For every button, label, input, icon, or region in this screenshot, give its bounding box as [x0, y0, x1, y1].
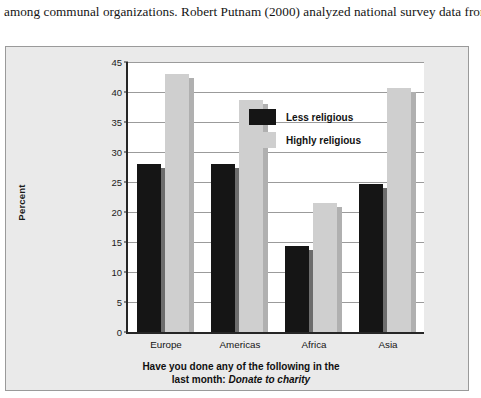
y-axis-tick-label: 40 [111, 87, 122, 98]
chart-container: Percent 051015202530354045EuropeAmericas… [6, 47, 470, 392]
y-axis-tick-label: 45 [111, 57, 122, 68]
bar-europe-highly-religious [165, 74, 189, 332]
y-axis-tick-label: 20 [111, 207, 122, 218]
x-axis-tick-label-americas: Americas [220, 339, 261, 350]
bar-asia-highly-religious [387, 88, 411, 332]
y-axis-tick-mark [124, 122, 128, 123]
page-root: among communal organizations. Robert Put… [0, 0, 481, 398]
y-axis-tick-mark [124, 92, 128, 93]
bar-body [211, 164, 235, 332]
legend-swatch-icon-highly-religious [249, 132, 276, 148]
figure-frame: Percent 051015202530354045EuropeAmericas… [5, 46, 469, 391]
legend-item-highly-religious: Highly religious [249, 130, 389, 150]
y-axis-tick-label: 5 [117, 297, 122, 308]
y-axis-tick-mark [124, 332, 128, 333]
bar-shadow [411, 92, 416, 332]
bar-body [137, 164, 161, 332]
y-axis-tick-mark [124, 212, 128, 213]
y-axis-tick-label: 35 [111, 117, 122, 128]
chart-legend: Less religious Highly religious [249, 107, 389, 153]
y-axis-tick-label: 15 [111, 237, 122, 248]
bar-body [359, 184, 383, 332]
y-axis-tick-mark [124, 182, 128, 183]
caption-line-2-prefix: last month: [172, 374, 229, 385]
caption-line-2-emphasis: Donate to charity [228, 374, 310, 385]
chart-caption: Have you done any of the following in th… [66, 360, 416, 386]
legend-label-highly-religious: Highly religious [286, 135, 361, 146]
y-axis-tick-label: 30 [111, 147, 122, 158]
body-paragraph-text: among communal organizations. Robert Put… [4, 3, 478, 20]
y-gridline [128, 62, 424, 63]
x-axis-tick-label-africa: Africa [301, 339, 326, 350]
bar-shadow [189, 78, 194, 332]
y-axis-tick-mark [124, 302, 128, 303]
bar-asia-less-religious [359, 184, 383, 332]
bar-shadow [337, 207, 342, 332]
y-axis-tick-label: 25 [111, 177, 122, 188]
legend-label-less-religious: Less religious [286, 112, 353, 123]
bar-europe-less-religious [137, 164, 161, 332]
bar-body [165, 74, 189, 332]
legend-item-less-religious: Less religious [249, 107, 389, 127]
bar-body [387, 88, 411, 332]
bar-africa-less-religious [285, 246, 309, 332]
y-axis-tick-label: 0 [117, 327, 122, 338]
bar-africa-highly-religious [313, 203, 337, 332]
y-axis-tick-mark [124, 272, 128, 273]
x-axis-tick-label-asia: Asia [378, 339, 397, 350]
y-axis-tick-mark [124, 242, 128, 243]
bar-americas-less-religious [211, 164, 235, 332]
bar-body [285, 246, 309, 332]
legend-swatch-icon-less-religious [249, 109, 276, 125]
y-axis-title: Percent [16, 163, 27, 243]
y-axis-tick-mark [124, 152, 128, 153]
x-axis-tick-label-europe: Europe [150, 339, 182, 350]
caption-line-1: Have you done any of the following in th… [142, 361, 339, 372]
bar-body [313, 203, 337, 332]
y-axis-tick-label: 10 [111, 267, 122, 278]
plot-area: 051015202530354045EuropeAmericasAfricaAs… [126, 62, 424, 334]
y-axis-tick-mark [124, 62, 128, 63]
